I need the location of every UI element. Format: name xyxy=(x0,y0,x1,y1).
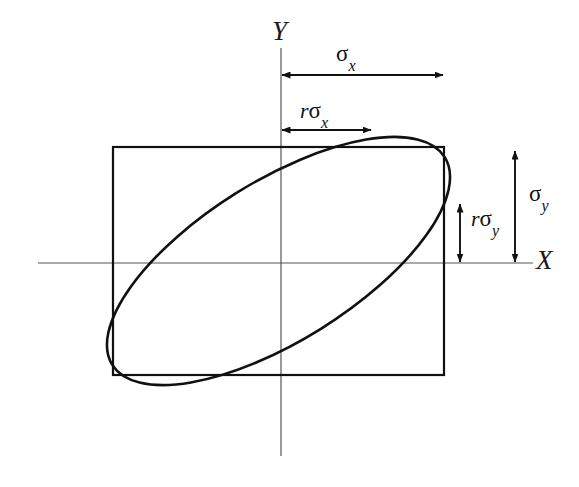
r-sigma-y-label: rσy xyxy=(471,207,499,235)
x-axis-label: X xyxy=(536,247,553,274)
r-sigma-x-symbol: σ xyxy=(309,98,321,123)
correlation-ellipse xyxy=(70,89,487,432)
r-sigma-y-symbol: σ xyxy=(480,206,492,231)
sigma-x-label: σx xyxy=(336,42,356,70)
correlation-ellipse-figure: Y X σx rσx σy rσy xyxy=(0,0,579,487)
standard-deviation-rectangle xyxy=(113,147,444,375)
sigma-y-label: σy xyxy=(529,182,549,210)
r-sigma-x-label: rσx xyxy=(300,99,328,127)
figure-canvas xyxy=(0,0,579,487)
r-sigma-x-subscript: x xyxy=(321,114,328,131)
r-sigma-y-r-factor: r xyxy=(471,206,480,231)
sigma-y-subscript: y xyxy=(541,197,548,214)
r-sigma-x-r-factor: r xyxy=(300,98,309,123)
sigma-y-symbol: σ xyxy=(529,181,541,206)
sigma-x-subscript: x xyxy=(348,57,355,74)
sigma-x-symbol: σ xyxy=(336,41,348,66)
r-sigma-y-subscript: y xyxy=(492,222,499,239)
y-axis-label: Y xyxy=(272,18,287,45)
